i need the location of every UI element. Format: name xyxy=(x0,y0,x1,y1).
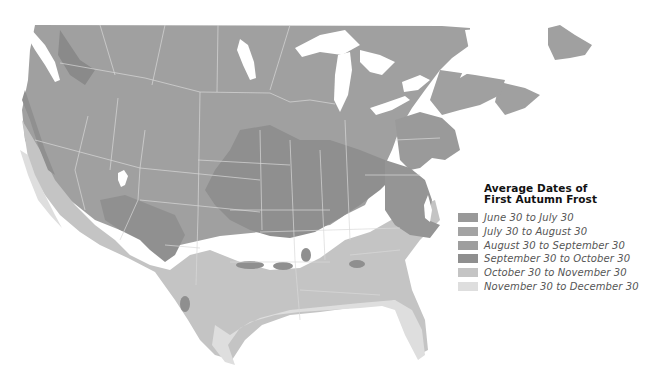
legend-item-nov-dec: November 30 to December 30 xyxy=(458,279,667,293)
legend-label: September 30 to October 30 xyxy=(484,253,630,264)
legend-swatch xyxy=(458,213,478,222)
legend-swatch xyxy=(458,241,478,250)
new-england xyxy=(395,112,460,170)
legend-label: August 30 to September 30 xyxy=(484,240,625,251)
legend: Average Dates of First Autumn Frost June… xyxy=(458,183,667,293)
legend-swatch xyxy=(458,254,478,263)
patch-tx xyxy=(180,296,190,312)
maritimes xyxy=(430,70,505,115)
legend-label: June 30 to July 30 xyxy=(484,212,574,223)
legend-item-oct-nov: October 30 to November 30 xyxy=(458,266,667,280)
legend-label: July 30 to August 30 xyxy=(484,226,587,237)
legend-item-aug-sep: August 30 to September 30 xyxy=(458,238,667,252)
legend-title: Average Dates of First Autumn Frost xyxy=(484,183,667,205)
newfoundland xyxy=(548,25,592,60)
st-lawrence xyxy=(460,28,530,78)
legend-item-jun-jul: June 30 to July 30 xyxy=(458,211,667,225)
patch-ga xyxy=(301,248,311,262)
legend-label: October 30 to November 30 xyxy=(484,267,627,278)
patch-sc xyxy=(349,260,365,268)
legend-item-jul-aug: July 30 to August 30 xyxy=(458,225,667,239)
legend-title-line2: First Autumn Frost xyxy=(484,194,667,205)
legend-item-sep-oct: September 30 to October 30 xyxy=(458,252,667,266)
legend-swatch xyxy=(458,227,478,236)
legend-swatch xyxy=(458,282,478,291)
legend-label: November 30 to December 30 xyxy=(484,281,639,292)
patch-al xyxy=(273,262,293,270)
legend-swatch xyxy=(458,268,478,277)
